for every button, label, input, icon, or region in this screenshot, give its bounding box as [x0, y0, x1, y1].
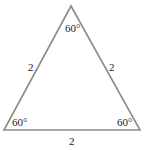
angle-label-bottom-left: 60° — [12, 116, 27, 128]
angle-label-bottom-right: 60° — [117, 116, 132, 128]
side-label-left: 2 — [28, 61, 34, 73]
equilateral-triangle-diagram: 60° 2 2 60° 60° 2 — [0, 0, 144, 150]
side-label-bottom: 2 — [69, 135, 75, 147]
side-label-right: 2 — [109, 61, 115, 73]
angle-label-top: 60° — [65, 22, 80, 34]
